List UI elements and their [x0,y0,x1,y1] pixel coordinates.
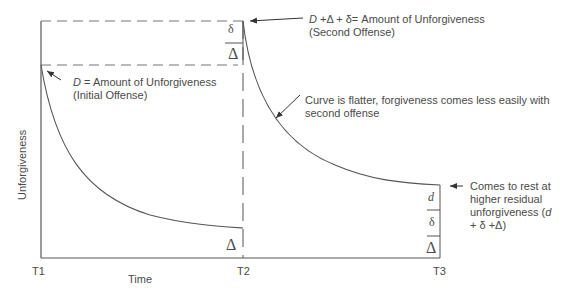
d-small-right: d [428,190,435,204]
delta-small-right: δ [429,215,435,229]
rest-annotation-line4: + δ +Δ) [470,219,506,231]
x-axis-label: Time [128,273,152,285]
initial-annotation-arrow [47,71,61,80]
delta-large-bottom-t2: Δ [226,236,236,253]
initial-annotation-line2: (Initial Offense) [73,89,147,101]
tick-t3: T3 [433,265,446,277]
initial-annotation-line1: D = Amount of Unforgiveness [73,76,217,88]
second-annotation-line2: (Second Offense) [309,26,395,38]
rest-annotation-line3: unforgiveness (d [470,206,552,218]
tick-t2: T2 [237,265,250,277]
flatter-annotation-arrow [276,95,300,118]
delta-large-top: Δ [228,45,238,62]
delta-small-top: δ [228,22,234,36]
delta-large-right: Δ [426,239,436,256]
flatter-annotation-line2: second offense [305,107,379,119]
rest-annotation-line2: higher residual [470,193,542,205]
second-annotation-arrow [250,18,303,21]
y-axis-label: Unforgiveness [16,129,28,200]
unforgiveness-diagram: δ Δ Δ d δ Δ Unforgiveness Time T1 T2 T3 … [0,0,563,298]
rest-annotation-line1: Comes to rest at [470,180,551,192]
second-annotation-line1: D +Δ + δ= Amount of Unforgiveness [309,13,485,25]
flatter-annotation-line1: Curve is flatter, forgiveness comes less… [305,94,550,106]
tick-t1: T1 [32,265,45,277]
